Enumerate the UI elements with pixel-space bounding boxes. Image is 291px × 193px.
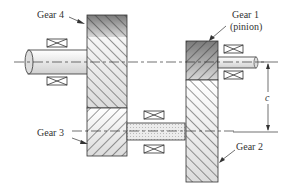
bearing-icon bbox=[224, 71, 243, 79]
gear-train-diagram: c Gear 4 Gear 1 (pinion) Gear 3 Gear 2 bbox=[0, 0, 291, 193]
bearing-icon bbox=[224, 45, 243, 53]
dimension-c-label: c bbox=[265, 92, 270, 103]
gear-4 bbox=[87, 15, 127, 108]
bearing-icon bbox=[47, 77, 67, 85]
bearing-icon bbox=[47, 39, 67, 47]
bearing-icon bbox=[144, 111, 164, 119]
gear-1-label: Gear 1 bbox=[232, 9, 259, 20]
gear-3-label: Gear 3 bbox=[37, 127, 64, 138]
gear-2-label: Gear 2 bbox=[236, 141, 263, 152]
gear-1-sublabel: (pinion) bbox=[230, 21, 262, 33]
bearing-icon bbox=[144, 145, 164, 153]
countershaft bbox=[127, 123, 185, 140]
output-shaft bbox=[218, 57, 258, 68]
gear-1-pinion bbox=[186, 41, 218, 80]
gear-4-label: Gear 4 bbox=[37, 9, 64, 20]
gear-3 bbox=[87, 108, 127, 156]
